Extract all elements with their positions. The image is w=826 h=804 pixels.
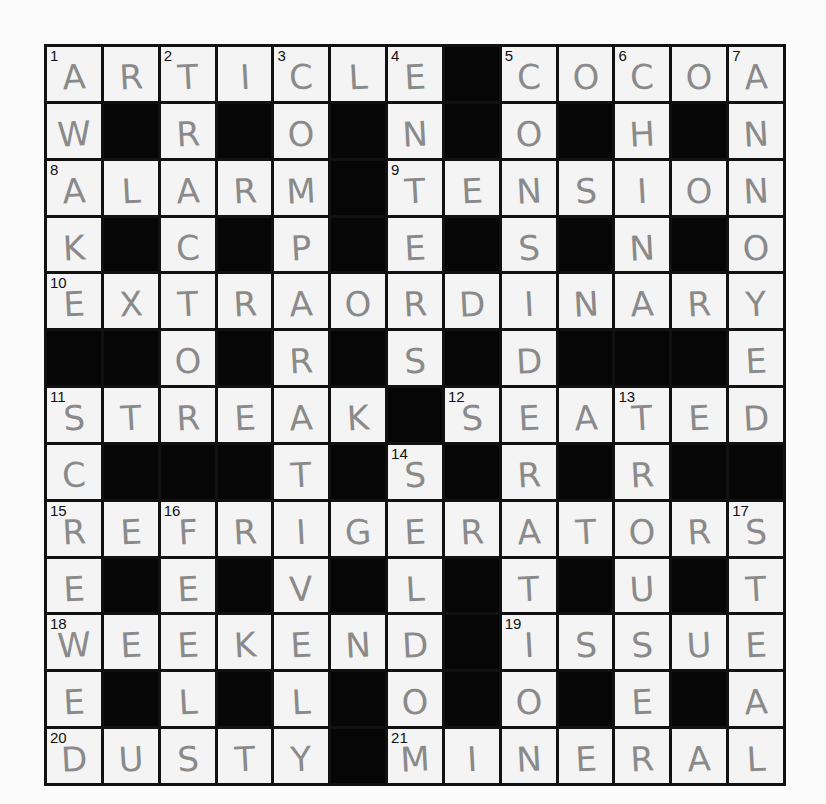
letter-cell[interactable]: G [331,502,385,556]
letter-cell[interactable]: T [502,559,556,613]
letter-cell[interactable]: I [445,729,499,783]
letter-cell[interactable]: A [729,672,783,726]
letter-cell[interactable]: D [502,331,556,385]
letter-cell[interactable]: E [672,388,726,442]
letter-cell[interactable]: S [559,161,613,215]
letter-cell[interactable]: E [274,615,328,669]
letter-cell[interactable]: E [161,559,215,613]
letter-cell[interactable]: O [615,502,669,556]
letter-cell[interactable]: O [502,672,556,726]
letter-cell[interactable]: N [615,218,669,272]
letter-cell[interactable]: 7A [729,47,783,101]
letter-cell[interactable]: N [729,161,783,215]
letter-cell[interactable]: E [615,672,669,726]
letter-cell[interactable]: T [274,445,328,499]
letter-cell[interactable]: U [615,559,669,613]
letter-cell[interactable]: A [274,388,328,442]
letter-cell[interactable]: I [615,161,669,215]
letter-cell[interactable]: O [729,218,783,272]
letter-cell[interactable]: R [218,274,272,328]
letter-cell[interactable]: K [47,218,101,272]
letter-cell[interactable]: T [559,502,613,556]
letter-cell[interactable]: R [161,104,215,158]
letter-cell[interactable]: K [331,388,385,442]
letter-cell[interactable]: Y [729,274,783,328]
letter-cell[interactable]: T [218,729,272,783]
letter-cell[interactable]: S [161,729,215,783]
letter-cell[interactable]: O [502,104,556,158]
letter-cell[interactable]: W [47,104,101,158]
letter-cell[interactable]: D [388,615,442,669]
letter-cell[interactable]: 4E [388,47,442,101]
letter-cell[interactable]: N [331,615,385,669]
letter-cell[interactable]: Y [274,729,328,783]
letter-cell[interactable]: L [161,672,215,726]
letter-cell[interactable]: N [502,729,556,783]
letter-cell[interactable]: E [161,615,215,669]
letter-cell[interactable]: 12S [445,388,499,442]
letter-cell[interactable]: A [559,388,613,442]
letter-cell[interactable]: R [218,502,272,556]
letter-cell[interactable]: R [615,729,669,783]
letter-cell[interactable]: E [559,729,613,783]
letter-cell[interactable]: N [388,104,442,158]
letter-cell[interactable]: N [502,161,556,215]
letter-cell[interactable]: 11S [47,388,101,442]
letter-cell[interactable]: L [729,729,783,783]
letter-cell[interactable]: 6C [615,47,669,101]
letter-cell[interactable]: 16F [161,502,215,556]
letter-cell[interactable]: 2T [161,47,215,101]
letter-cell[interactable]: I [218,47,272,101]
letter-cell[interactable]: I [274,502,328,556]
letter-cell[interactable]: N [729,104,783,158]
letter-cell[interactable]: V [274,559,328,613]
letter-cell[interactable]: U [104,729,158,783]
letter-cell[interactable]: O [274,104,328,158]
letter-cell[interactable]: D [445,274,499,328]
letter-cell[interactable]: S [388,331,442,385]
letter-cell[interactable]: S [615,615,669,669]
letter-cell[interactable]: T [729,559,783,613]
letter-cell[interactable]: R [218,161,272,215]
letter-cell[interactable]: O [672,47,726,101]
letter-cell[interactable]: D [729,388,783,442]
letter-cell[interactable]: U [672,615,726,669]
letter-cell[interactable]: R [502,445,556,499]
letter-cell[interactable]: E [104,502,158,556]
letter-cell[interactable]: T [161,274,215,328]
letter-cell[interactable]: H [615,104,669,158]
letter-cell[interactable]: O [161,331,215,385]
letter-cell[interactable]: E [445,161,499,215]
letter-cell[interactable]: L [331,47,385,101]
letter-cell[interactable]: 5C [502,47,556,101]
letter-cell[interactable]: E [729,615,783,669]
letter-cell[interactable]: R [161,388,215,442]
letter-cell[interactable]: A [615,274,669,328]
letter-cell[interactable]: A [502,502,556,556]
letter-cell[interactable]: 14S [388,445,442,499]
letter-cell[interactable]: 3C [274,47,328,101]
letter-cell[interactable]: P [274,218,328,272]
letter-cell[interactable]: R [672,502,726,556]
letter-cell[interactable]: C [161,218,215,272]
letter-cell[interactable]: R [104,47,158,101]
letter-cell[interactable]: E [47,672,101,726]
letter-cell[interactable]: K [218,615,272,669]
letter-cell[interactable]: X [104,274,158,328]
letter-cell[interactable]: 15R [47,502,101,556]
letter-cell[interactable]: A [274,274,328,328]
letter-cell[interactable]: 8A [47,161,101,215]
letter-cell[interactable]: O [559,47,613,101]
letter-cell[interactable]: 17S [729,502,783,556]
letter-cell[interactable]: S [559,615,613,669]
letter-cell[interactable]: 21M [388,729,442,783]
letter-cell[interactable]: R [388,274,442,328]
letter-cell[interactable]: C [47,445,101,499]
letter-cell[interactable]: 19I [502,615,556,669]
letter-cell[interactable]: M [274,161,328,215]
letter-cell[interactable]: N [559,274,613,328]
letter-cell[interactable]: L [274,672,328,726]
letter-cell[interactable]: O [388,672,442,726]
letter-cell[interactable]: O [331,274,385,328]
letter-cell[interactable]: T [104,388,158,442]
